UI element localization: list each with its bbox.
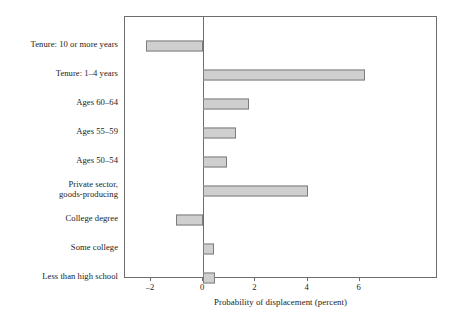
- plot-inner: [125, 17, 436, 277]
- x-axis-tick-label: 6: [357, 282, 361, 292]
- category-label: College degree: [0, 214, 118, 224]
- bar-chart-figure: Tenure: 10 or more years Tenure: 1–4 yea…: [0, 0, 454, 322]
- x-axis-tick-label: –2: [146, 282, 155, 292]
- category-label: Tenure: 10 or more years: [0, 40, 118, 50]
- plot-area: [124, 16, 437, 278]
- category-label: Ages 60–64: [0, 98, 118, 108]
- bar: [203, 128, 236, 139]
- category-label: Tenure: 1–4 years: [0, 69, 118, 79]
- zero-reference-line: [203, 17, 204, 277]
- x-axis-tick-mark: [150, 277, 151, 281]
- x-axis-tick-label: 0: [200, 282, 204, 292]
- category-axis-labels: Tenure: 10 or more years Tenure: 1–4 yea…: [0, 16, 118, 278]
- bar: [176, 215, 203, 226]
- category-label: Ages 50–54: [0, 156, 118, 166]
- bar: [203, 70, 365, 81]
- bar: [203, 157, 226, 168]
- x-axis-tick-label: 2: [252, 282, 256, 292]
- x-axis-tick-mark: [202, 277, 203, 281]
- x-axis-tick-mark: [359, 277, 360, 281]
- bar: [146, 41, 203, 52]
- bar: [203, 244, 213, 255]
- category-label: Private sector, goods-producing: [0, 180, 118, 199]
- x-axis-tick-label: 4: [304, 282, 308, 292]
- bar: [203, 99, 249, 110]
- x-axis-tick-mark: [254, 277, 255, 281]
- x-axis-title: Probability of displacement (percent): [124, 297, 437, 308]
- category-label: Ages 55–59: [0, 127, 118, 137]
- x-axis-tick-mark: [307, 277, 308, 281]
- category-label: Some college: [0, 243, 118, 253]
- bar: [203, 186, 307, 197]
- category-label: Less than high school: [0, 272, 118, 282]
